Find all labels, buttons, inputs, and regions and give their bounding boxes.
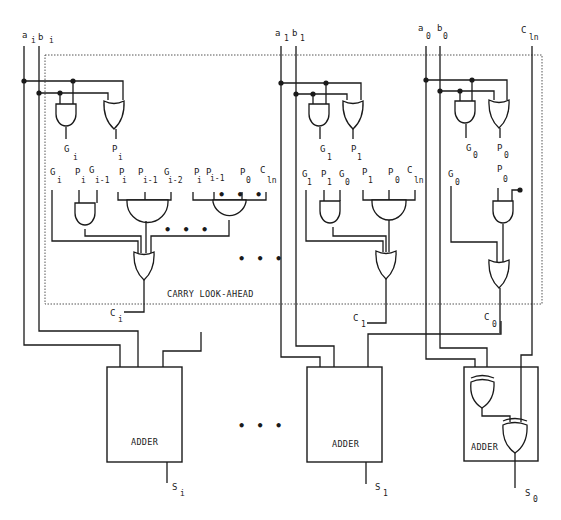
svg-text:ln: ln <box>414 176 424 185</box>
or-gate-p <box>343 101 363 129</box>
svg-text:G: G <box>466 143 471 153</box>
svg-text:0: 0 <box>443 32 448 41</box>
svg-text:0: 0 <box>246 176 251 185</box>
svg-text:C: C <box>353 313 358 323</box>
svg-text:C: C <box>260 165 265 175</box>
carry-lookahead-label: CARRY LOOK-AHEAD <box>167 289 254 299</box>
and-gate-g <box>455 101 475 123</box>
svg-text:P: P <box>497 164 503 174</box>
or-gate-carry <box>489 260 509 288</box>
svg-text:G: G <box>448 169 453 179</box>
svg-text:b: b <box>292 28 297 38</box>
svg-text:b: b <box>437 23 442 33</box>
svg-text:a: a <box>275 28 280 38</box>
svg-text:0: 0 <box>504 151 509 160</box>
svg-text:S: S <box>172 482 177 492</box>
and-gate-g <box>309 104 329 126</box>
svg-text:ADDER: ADDER <box>471 442 499 452</box>
svg-text:0: 0 <box>395 176 400 185</box>
svg-text:1: 1 <box>284 34 289 43</box>
svg-text:i: i <box>118 315 123 324</box>
svg-text:• • •: • • • <box>164 223 210 237</box>
svg-text:0: 0 <box>345 178 350 187</box>
svg-text:G: G <box>89 165 94 175</box>
svg-text:P: P <box>388 167 394 177</box>
and-gate-g <box>56 104 76 126</box>
svg-text:P: P <box>497 143 503 153</box>
svg-text:i-1: i-1 <box>95 176 110 185</box>
svg-text:0: 0 <box>426 32 431 41</box>
carry-lookahead-adder-diagram: CARRY LOOK-AHEAD a i b i G i P i G i P i… <box>0 0 561 520</box>
svg-text:i: i <box>31 36 36 45</box>
stage-0: a 0 b 0 C ln G 0 P 0 G 0 P 0 C <box>418 23 539 504</box>
svg-text:ln: ln <box>267 176 277 185</box>
svg-text:G: G <box>320 144 325 154</box>
svg-text:1: 1 <box>383 489 388 498</box>
stage-ellipsis: • • • <box>238 252 284 266</box>
and-gate-p-cin <box>493 201 513 223</box>
svg-text:ADDER: ADDER <box>332 439 360 449</box>
carry-lookahead-boundary <box>45 55 542 304</box>
svg-text:C: C <box>521 25 526 35</box>
svg-text:a: a <box>418 23 423 33</box>
svg-text:1: 1 <box>327 153 332 162</box>
svg-text:i-2: i-2 <box>168 176 183 185</box>
svg-text:ADDER: ADDER <box>131 437 159 447</box>
and-gate-pg <box>75 203 95 225</box>
svg-text:G: G <box>64 144 69 154</box>
or-gate-carry <box>376 251 396 279</box>
svg-text:1: 1 <box>327 178 332 187</box>
svg-text:0: 0 <box>533 495 538 504</box>
svg-text:i-1: i-1 <box>143 176 158 185</box>
svg-text:i: i <box>122 176 127 185</box>
svg-text:1: 1 <box>357 153 362 162</box>
svg-text:i: i <box>118 153 123 162</box>
svg-text:i-1: i-1 <box>210 174 225 183</box>
input-a-label: a <box>22 30 27 40</box>
svg-text:1: 1 <box>300 34 305 43</box>
or-gate-p <box>489 100 509 128</box>
svg-text:C: C <box>484 312 489 322</box>
svg-text:C: C <box>110 308 115 318</box>
svg-text:i: i <box>81 176 86 185</box>
adder-block <box>107 367 182 462</box>
svg-text:ln: ln <box>529 33 539 42</box>
input-b-label: b <box>38 32 43 42</box>
svg-text:S: S <box>525 488 530 498</box>
svg-text:G: G <box>339 169 344 179</box>
svg-text:i: i <box>197 176 202 185</box>
svg-text:i: i <box>180 489 185 498</box>
and-gate-pppc <box>213 200 246 216</box>
svg-text:C: C <box>407 165 412 175</box>
svg-text:1: 1 <box>368 176 373 185</box>
and-gate-ppg <box>127 200 168 222</box>
svg-text:1: 1 <box>361 320 366 329</box>
svg-text:0: 0 <box>473 151 478 160</box>
svg-text:0: 0 <box>492 320 497 329</box>
adder-ellipsis: • • • <box>238 419 284 433</box>
and-gate-ppc <box>372 200 406 220</box>
svg-text:G: G <box>50 167 55 177</box>
svg-text:i: i <box>49 36 54 45</box>
and-gate-pg <box>320 201 340 223</box>
svg-text:1: 1 <box>307 178 312 187</box>
or-gate-p <box>104 101 124 129</box>
svg-text:i: i <box>57 176 62 185</box>
svg-text:0: 0 <box>455 178 460 187</box>
or-gate-carry <box>134 252 154 280</box>
svg-text:0: 0 <box>503 175 508 184</box>
svg-text:i: i <box>73 153 78 162</box>
svg-text:S: S <box>375 482 380 492</box>
